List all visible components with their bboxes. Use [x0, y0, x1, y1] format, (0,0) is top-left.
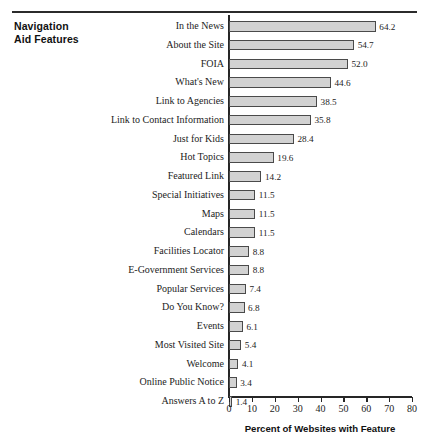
x-axis-tick-label: 80: [407, 403, 417, 415]
bar: [229, 340, 241, 351]
bar-value-label: 14.2: [265, 172, 281, 183]
bar-value-label: 7.4: [249, 284, 260, 295]
bar-category-label: Events: [19, 320, 224, 332]
bar-value-label: 8.8: [253, 265, 264, 276]
bar-value-label: 54.7: [358, 40, 374, 51]
bar-value-label: 11.5: [259, 228, 275, 239]
x-axis-tick: [229, 397, 230, 402]
bar: [229, 21, 376, 32]
bar-category-label: Online Public Notice: [19, 376, 224, 388]
x-axis-tick-label: 10: [247, 403, 257, 415]
bar-row: Do You Know?6.8: [0, 302, 429, 321]
x-axis-tick-label: 20: [270, 403, 280, 415]
bar: [229, 171, 261, 182]
bar-category-label: Welcome: [19, 358, 224, 370]
bar-value-label: 38.5: [321, 97, 337, 108]
x-axis-tick-label: 30: [293, 403, 303, 415]
bar-row: Hot Topics19.6: [0, 152, 429, 171]
bar: [229, 227, 255, 238]
bar: [229, 40, 354, 51]
bar-category-label: Do You Know?: [19, 301, 224, 313]
bar: [229, 284, 246, 295]
bar-category-label: Maps: [19, 208, 224, 220]
bar: [229, 359, 238, 370]
bar-value-label: 6.1: [246, 322, 257, 333]
bar-row: Most Visited Site5.4: [0, 340, 429, 359]
bar-row: Popular Services7.4: [0, 284, 429, 303]
bar-value-label: 1.4: [236, 397, 247, 408]
x-axis-tick-label: 40: [316, 403, 326, 415]
bar-category-label: E-Government Services: [19, 264, 224, 276]
bar: [229, 96, 317, 107]
bar-category-label: Popular Services: [19, 283, 224, 295]
plot-area: In the News64.2About the Site54.7FOIA52.…: [0, 0, 429, 442]
bar-row: Link to Agencies38.5: [0, 96, 429, 115]
bar-value-label: 11.5: [259, 190, 275, 201]
x-axis-tick-label: 50: [338, 403, 348, 415]
bar-row: Welcome4.1: [0, 359, 429, 378]
x-axis-tick: [412, 397, 413, 402]
bar-row: In the News64.2: [0, 21, 429, 40]
bar-category-label: Hot Topics: [19, 151, 224, 163]
bar-row: Calendars11.5: [0, 227, 429, 246]
bar-value-label: 19.6: [277, 153, 293, 164]
bar: [229, 302, 245, 313]
x-axis-tick: [389, 397, 390, 402]
x-axis-tick: [298, 397, 299, 402]
bar: [229, 59, 348, 70]
bar-row: Maps11.5: [0, 209, 429, 228]
bar-category-label: In the News: [19, 20, 224, 32]
bar-category-label: Answers A to Z: [19, 395, 224, 407]
bar: [229, 134, 294, 145]
bar-row: Featured Link14.2: [0, 171, 429, 190]
bar: [229, 152, 274, 163]
bar-row: FOIA52.0: [0, 59, 429, 78]
bar-value-label: 52.0: [351, 59, 367, 70]
x-axis-tick-label: 60: [361, 403, 371, 415]
x-axis-title: Percent of Websites with Feature: [228, 423, 412, 434]
bar-row: Special Initiatives11.5: [0, 190, 429, 209]
x-axis-tick-label: 70: [384, 403, 394, 415]
bar-row: What's New44.6: [0, 77, 429, 96]
bar-value-label: 8.8: [253, 247, 264, 258]
bar: [229, 246, 249, 257]
chart-figure: Navigation Aid Features In the News64.2A…: [0, 0, 429, 442]
bar-category-label: Special Initiatives: [19, 189, 224, 201]
bar-row: Events6.1: [0, 321, 429, 340]
bar-category-label: Facilities Locator: [19, 245, 224, 257]
bar-row: About the Site54.7: [0, 40, 429, 59]
bar-category-label: Link to Agencies: [19, 95, 224, 107]
bar-value-label: 3.4: [240, 378, 251, 389]
bar-value-label: 5.4: [245, 340, 256, 351]
bar: [229, 377, 237, 388]
x-axis-tick: [321, 397, 322, 402]
bar-row: Link to Contact Information35.8: [0, 115, 429, 134]
bar-value-label: 28.4: [297, 134, 313, 145]
bar: [229, 190, 255, 201]
bar-value-label: 44.6: [335, 78, 351, 89]
bar-category-label: FOIA: [19, 58, 224, 70]
bar-category-label: Most Visited Site: [19, 339, 224, 351]
bar-value-label: 64.2: [379, 22, 395, 33]
bar: [229, 265, 249, 276]
bar-category-label: Just for Kids: [19, 133, 224, 145]
x-axis-tick: [252, 397, 253, 402]
bar-value-label: 11.5: [259, 209, 275, 220]
x-axis-tick: [275, 397, 276, 402]
bar-row: Online Public Notice3.4: [0, 377, 429, 396]
bar: [229, 115, 311, 126]
bar-category-label: Featured Link: [19, 170, 224, 182]
bar-value-label: 6.8: [248, 303, 259, 314]
x-axis-tick-label: 0: [227, 403, 232, 415]
bar-value-label: 35.8: [314, 115, 330, 126]
bar: [229, 209, 255, 220]
bar: [229, 321, 243, 332]
bar-category-label: What's New: [19, 76, 224, 88]
bar: [229, 77, 331, 88]
bar-category-label: About the Site: [19, 39, 224, 51]
x-axis-tick: [366, 397, 367, 402]
x-axis-tick: [343, 397, 344, 402]
bar-value-label: 4.1: [242, 359, 253, 370]
bar-row: E-Government Services8.8: [0, 265, 429, 284]
bar-row: Just for Kids28.4: [0, 134, 429, 153]
